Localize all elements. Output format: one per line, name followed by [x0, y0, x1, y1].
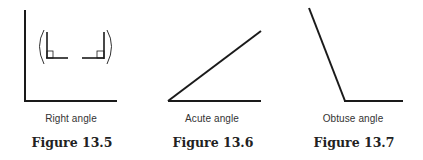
- figure-label-13-5: Figure 13.5: [12, 135, 132, 150]
- figure-label-13-7: Figure 13.7: [294, 135, 414, 150]
- right-angle-square-right-icon: [97, 51, 104, 58]
- acute-angle-diagram: [168, 31, 261, 101]
- right-parenthesis-icon: [107, 30, 112, 64]
- obtuse-angle-diagram: [309, 8, 403, 101]
- acute-angle-slanted-ray: [168, 31, 261, 101]
- caption-obtuse-angle: Obtuse angle: [293, 113, 413, 124]
- right-angle-square-left-icon: [47, 51, 53, 58]
- caption-right-angle: Right angle: [11, 113, 131, 124]
- left-parenthesis-icon: [40, 30, 45, 64]
- caption-acute-angle: Acute angle: [152, 113, 272, 124]
- figure-label-13-6: Figure 13.6: [153, 135, 273, 150]
- right-angle-diagram: [24, 10, 117, 101]
- obtuse-angle-slanted-ray: [309, 8, 345, 101]
